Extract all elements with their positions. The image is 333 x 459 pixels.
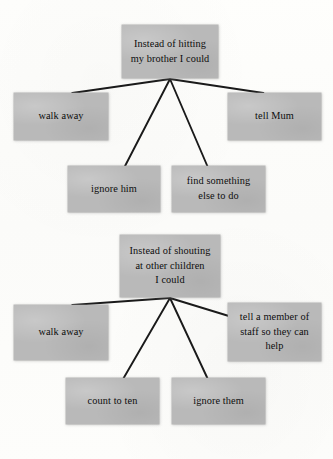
root-node-shouting-at-other-children: Instead of shouting at other children I …: [120, 235, 220, 297]
option-node-label: ignore him: [86, 182, 142, 197]
option-node-label: find something else to do: [182, 174, 255, 203]
option-node-tell-a-member-of-staff: tell a member of staff so they can help: [228, 303, 321, 361]
connector-line-walk-away: [72, 298, 170, 305]
option-node-ignore-him: ignore him: [68, 166, 160, 212]
connector-line-count-to-ten: [124, 298, 170, 378]
option-node-label: walk away: [33, 325, 88, 340]
option-node-label: tell a member of staff so they can help: [235, 310, 314, 354]
option-node-label: count to ten: [83, 394, 143, 409]
connector-line-tell-mum: [170, 79, 263, 93]
option-node-label: walk away: [33, 109, 88, 124]
connector-line-ignore-them: [170, 298, 207, 378]
option-node-count-to-ten: count to ten: [66, 378, 159, 424]
root-node-label: Instead of shouting at other children I …: [125, 244, 216, 288]
option-node-walk-away: walk away: [14, 93, 108, 140]
root-node-hitting-my-brother: Instead of hitting my brother I could: [122, 25, 218, 78]
connector-line-walk-away: [72, 79, 170, 93]
connector-line-ignore-him: [125, 79, 170, 166]
option-node-tell-mum: tell Mum: [228, 93, 321, 140]
connector-line-find-something-else: [170, 79, 207, 166]
option-node-label: ignore them: [188, 394, 249, 409]
option-node-label: tell Mum: [250, 109, 299, 124]
worksheet-page: Instead of hitting my brother I couldwal…: [0, 0, 333, 459]
connector-line-tell-a-member-of-staff: [170, 298, 228, 316]
option-node-find-something-else: find something else to do: [172, 166, 265, 212]
option-node-walk-away: walk away: [14, 305, 108, 360]
root-node-label: Instead of hitting my brother I could: [126, 37, 215, 66]
option-node-ignore-them: ignore them: [172, 378, 265, 424]
